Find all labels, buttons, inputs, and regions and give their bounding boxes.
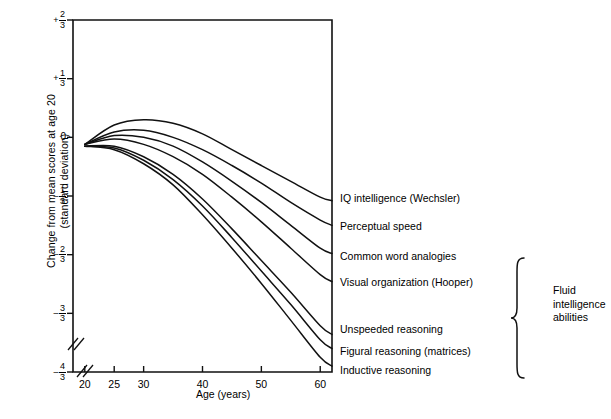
fluid-intelligence-brace [511,258,524,378]
brace-inner-hidden [510,272,521,366]
series-curve-4 [85,145,332,334]
series-curve-3 [85,139,332,282]
axis-break-marks [68,338,93,377]
series-curve-5 [85,146,332,348]
chart-figure: Change from mean scores at age 20 (stand… [0,0,611,419]
plot-canvas [0,0,611,419]
plot-frame [73,20,332,372]
series-curve-0 [85,120,332,201]
